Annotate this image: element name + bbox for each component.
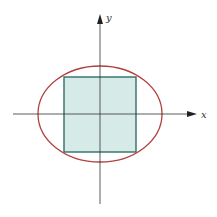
y-axis-label: y — [105, 12, 112, 23]
x-axis-arrow-icon — [187, 111, 197, 117]
y-axis-arrow-icon — [97, 14, 103, 24]
x-axis-label: x — [201, 109, 207, 120]
diagram-canvas: x y — [0, 0, 217, 217]
